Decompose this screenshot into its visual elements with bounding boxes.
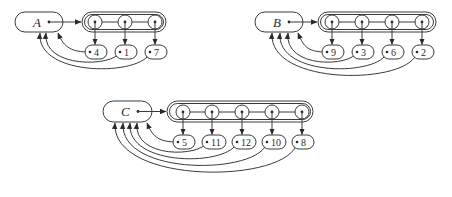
set-name-label: A [32, 15, 41, 30]
pointer-dot [416, 51, 419, 54]
pointer-dot [119, 51, 122, 54]
element-value: 9 [331, 47, 336, 58]
pointer-dot [296, 141, 299, 144]
element-value: 3 [361, 47, 366, 58]
pointer-dot [356, 51, 359, 54]
element-value: 7 [154, 47, 159, 58]
element-value: 10 [271, 137, 281, 148]
pointer-dot [236, 141, 239, 144]
back-pointer-arrow [46, 33, 120, 62]
pointer-dot [386, 51, 389, 54]
element-value: 1 [124, 47, 129, 58]
pointer-dot [266, 141, 269, 144]
back-pointer-arrow [137, 123, 207, 152]
back-pointer-arrow [288, 33, 357, 62]
element-value: 6 [391, 47, 396, 58]
set-a: A417 [15, 12, 167, 69]
element-value: 8 [301, 137, 306, 148]
set-b: B9362 [255, 12, 436, 75]
pointer-dot [326, 51, 329, 54]
set-name-label: B [273, 15, 281, 30]
element-value: 2 [421, 47, 426, 58]
element-value: 4 [94, 47, 99, 58]
pointer-dot [89, 51, 92, 54]
disjoint-set-diagram: A417B9362C51112108 [0, 0, 452, 197]
element-value: 11 [211, 137, 221, 148]
pointer-dot [206, 141, 209, 144]
element-value: 5 [182, 137, 187, 148]
set-name-label: C [121, 104, 130, 119]
element-value: 12 [241, 137, 251, 148]
set-c: C51112108 [103, 101, 314, 172]
pointer-dot [149, 51, 152, 54]
pointer-dot [177, 141, 180, 144]
